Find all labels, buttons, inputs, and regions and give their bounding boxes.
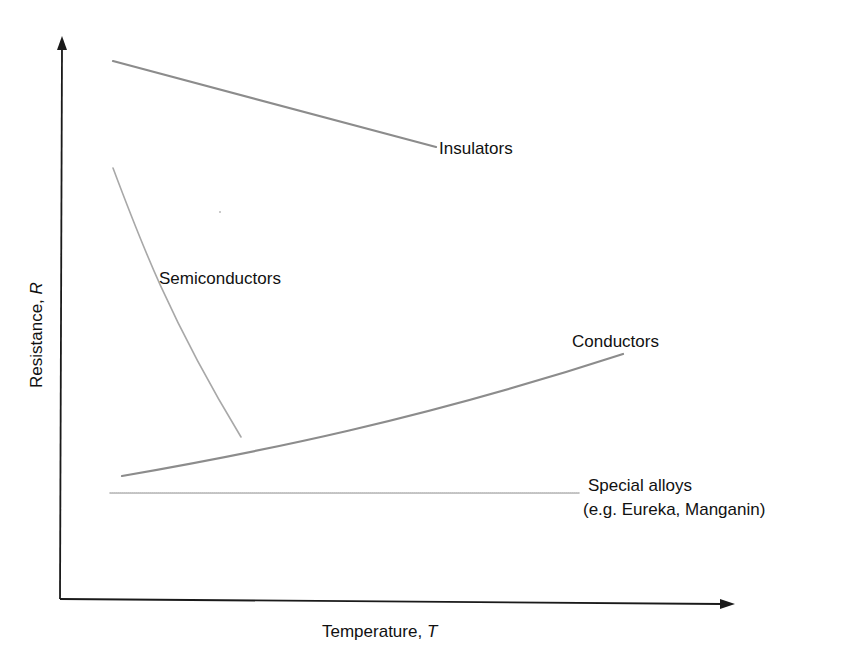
- x-axis-title: Temperature, T: [322, 622, 439, 641]
- insulators-label: Insulators: [439, 139, 513, 158]
- conductors-label: Conductors: [572, 332, 659, 351]
- x-axis-arrow-icon: [720, 599, 735, 609]
- semiconductors-curve: [113, 168, 241, 437]
- resistance-temperature-diagram: Temperature, T Resistance, R Insulators …: [0, 0, 845, 664]
- insulators-curve: [113, 61, 436, 147]
- y-axis-arrow-icon: [57, 36, 67, 50]
- y-axis: [57, 36, 67, 599]
- semiconductors-label: Semiconductors: [159, 269, 281, 288]
- special-alloys-examples-label: (e.g. Eureka, Manganin): [583, 500, 765, 519]
- conductors-curve: [122, 354, 623, 476]
- x-axis: [60, 599, 735, 609]
- speck: [219, 211, 221, 213]
- special-alloys-label: Special alloys: [588, 476, 692, 495]
- y-axis-title: Resistance, R: [27, 282, 46, 388]
